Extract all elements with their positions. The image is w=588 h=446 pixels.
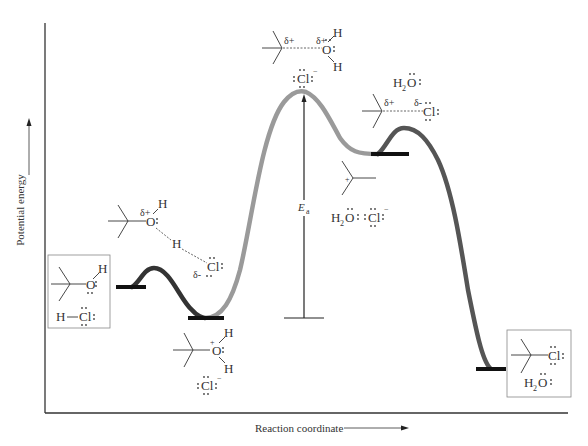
- ea-label: E: [297, 201, 305, 213]
- reactants-box: O H H Cl: [48, 255, 110, 328]
- curve-step2: [205, 91, 378, 318]
- svg-text:H: H: [172, 236, 181, 251]
- y-arrow-head-icon: [27, 118, 32, 126]
- transition-state-3: H 2 O δ+ δ- Cl: [362, 73, 439, 128]
- level-reactants: [116, 285, 146, 289]
- ea-subscript: a: [306, 207, 310, 216]
- svg-text:H: H: [331, 210, 340, 225]
- svg-text:H: H: [333, 59, 342, 74]
- svg-text:H: H: [393, 75, 402, 90]
- svg-text:H: H: [224, 361, 233, 376]
- svg-text:O: O: [407, 75, 416, 90]
- svg-text:2: 2: [533, 384, 537, 393]
- svg-text:Cl: Cl: [368, 210, 381, 225]
- svg-text:Potential energy: Potential energy: [14, 174, 26, 246]
- svg-text:O: O: [212, 343, 221, 358]
- svg-text:Cl: Cl: [297, 71, 310, 86]
- svg-text:O: O: [86, 277, 95, 292]
- intermediate-2: + H 2 O Cl −: [331, 161, 389, 228]
- svg-text:Cl: Cl: [201, 378, 214, 393]
- svg-text:H: H: [524, 375, 533, 390]
- svg-text:δ+: δ+: [284, 35, 295, 46]
- svg-text:H: H: [98, 261, 107, 276]
- transition-state-1: δ+ O H H Cl δ-: [108, 196, 223, 280]
- svg-text:Cl: Cl: [548, 348, 561, 363]
- svg-text:δ-: δ-: [193, 269, 201, 280]
- svg-text:2: 2: [340, 219, 344, 228]
- x-axis-title: Reaction coordinate: [255, 422, 343, 434]
- curve-step3: [378, 128, 490, 368]
- transition-state-2: δ+ δ+ O H H Cl −: [262, 25, 342, 88]
- level-products: [476, 367, 506, 371]
- y-axis-title: Potential energy: [14, 174, 26, 246]
- level-intermediate1: [188, 316, 224, 320]
- svg-text:δ+: δ+: [384, 97, 395, 108]
- svg-text:Cl: Cl: [207, 259, 220, 274]
- svg-text:O: O: [322, 42, 331, 57]
- svg-text:H: H: [56, 309, 65, 324]
- reaction-energy-diagram: Potential energy Reaction coordinate E a…: [0, 0, 588, 446]
- svg-text:δ-: δ-: [414, 97, 422, 108]
- svg-text:Cl: Cl: [79, 309, 92, 324]
- svg-text:H: H: [224, 325, 233, 340]
- svg-text:2: 2: [402, 84, 406, 93]
- svg-text:−: −: [313, 67, 318, 76]
- products-box: Cl H 2 O: [507, 330, 571, 397]
- level-intermediate2: [371, 152, 409, 156]
- svg-text:−: −: [217, 374, 222, 383]
- x-arrow-head-icon: [401, 426, 409, 431]
- intermediate-1: + O H H Cl −: [173, 325, 233, 395]
- svg-text:−: −: [384, 205, 389, 214]
- svg-text:H: H: [158, 196, 167, 211]
- svg-text:O: O: [538, 375, 547, 390]
- svg-text:Cl: Cl: [423, 104, 436, 119]
- svg-text:O: O: [345, 210, 354, 225]
- ea-arrow-head-icon: [302, 94, 307, 102]
- svg-text:O: O: [146, 214, 155, 229]
- svg-text:+: +: [345, 175, 350, 184]
- svg-text:H: H: [333, 25, 342, 40]
